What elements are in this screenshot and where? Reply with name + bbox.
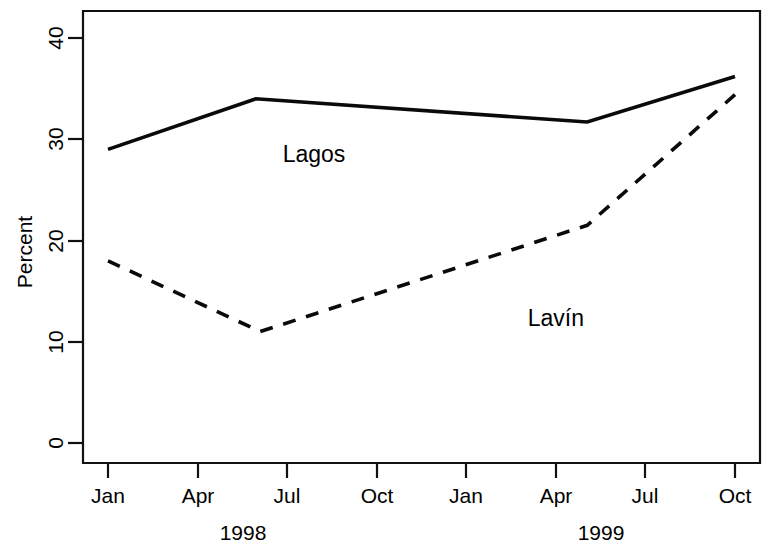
y-tick-label-20: 20: [44, 229, 67, 252]
series-line-lavin: [108, 95, 735, 332]
y-tick-label-10: 10: [44, 330, 67, 353]
x-axis-year-labels: 1998 1999: [220, 521, 625, 544]
x-tick-label-1: Apr: [182, 484, 215, 507]
x-tick-label-7: Oct: [719, 484, 752, 507]
chart-canvas: 0 10 20 30 40 Percent Jan Apr Jul Oct Ja…: [0, 0, 778, 552]
y-axis-title: Percent: [13, 216, 36, 289]
y-tick-label-40: 40: [44, 26, 67, 49]
year-label-1998: 1998: [220, 521, 267, 544]
y-tick-label-0: 0: [44, 437, 67, 449]
y-tick-label-30: 30: [44, 127, 67, 150]
line-chart: 0 10 20 30 40 Percent Jan Apr Jul Oct Ja…: [0, 0, 778, 552]
plot-frame: [83, 11, 760, 463]
y-axis-tick-labels: 0 10 20 30 40: [44, 26, 67, 449]
series-annotation-lavin: Lavín: [528, 305, 584, 331]
series-annotation-lagos: Lagos: [283, 141, 346, 167]
x-axis-ticks: [108, 463, 735, 478]
x-tick-label-2: Jul: [274, 484, 301, 507]
x-tick-label-5: Apr: [540, 484, 573, 507]
y-axis-ticks: [68, 38, 83, 443]
x-axis-tick-labels: Jan Apr Jul Oct Jan Apr Jul Oct: [91, 484, 751, 507]
x-tick-label-0: Jan: [91, 484, 125, 507]
year-label-1999: 1999: [578, 521, 625, 544]
x-tick-label-6: Jul: [632, 484, 659, 507]
series-line-lagos: [108, 77, 735, 150]
x-tick-label-3: Oct: [361, 484, 394, 507]
x-tick-label-4: Jan: [449, 484, 483, 507]
